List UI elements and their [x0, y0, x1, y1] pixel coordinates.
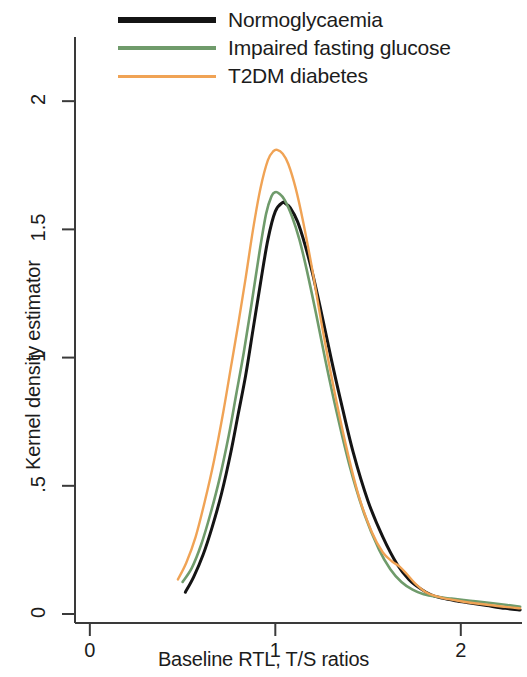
y-tick-label: 1 [27, 336, 50, 376]
y-tick-label: 1.5 [27, 208, 50, 248]
density-curve [178, 150, 520, 609]
series-layer [178, 150, 520, 610]
axis-layer [62, 37, 522, 636]
y-tick-label: .5 [27, 464, 50, 504]
y-tick-label: 0 [27, 593, 50, 633]
kernel-density-figure: Normoglycaemia Impaired fasting glucose … [0, 0, 527, 677]
x-tick-label: 1 [255, 639, 295, 662]
x-tick-label: 2 [441, 639, 481, 662]
plot-canvas [0, 0, 527, 677]
density-curve [183, 192, 521, 607]
y-tick-label: 2 [27, 80, 50, 120]
x-tick-label: 0 [70, 639, 110, 662]
density-curve [185, 202, 520, 610]
